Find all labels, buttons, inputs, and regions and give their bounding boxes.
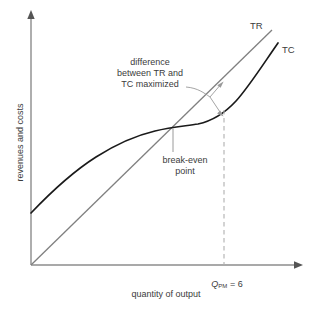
x-tick-label-profit-max-quantity: QPM = 6	[192, 268, 252, 303]
y-axis-title: revenues and costs	[15, 83, 26, 203]
x-axis	[31, 261, 303, 268]
annotation-break-even-point: break-even point	[144, 155, 226, 177]
annotation-difference-maximized: difference between TR and TC maximized	[98, 57, 202, 91]
qpm-subscript: PM	[218, 283, 227, 289]
series-label-tr: TR	[250, 20, 263, 31]
series-label-tc: TC	[282, 44, 295, 55]
y-axis	[27, 10, 34, 265]
break-even-chart: revenues and costs quantity of output TR…	[0, 0, 319, 313]
qpm-equals-value: = 6	[228, 279, 243, 289]
